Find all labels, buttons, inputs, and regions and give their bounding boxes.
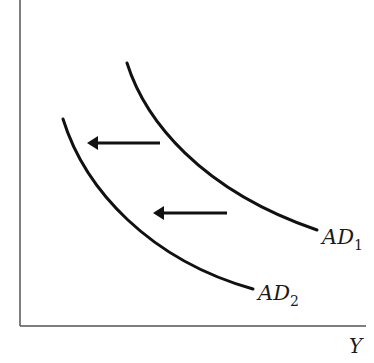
- arrow-left-icon: [87, 136, 160, 150]
- ad1-curve: [127, 63, 317, 230]
- x-axis-label: Y: [349, 334, 364, 358]
- arrow-left-icon: [153, 206, 227, 220]
- ad1-label: AD1: [320, 225, 363, 253]
- ad2-label: AD2: [256, 281, 299, 309]
- ad-shift-diagram: AD1 AD2 Y: [0, 0, 374, 363]
